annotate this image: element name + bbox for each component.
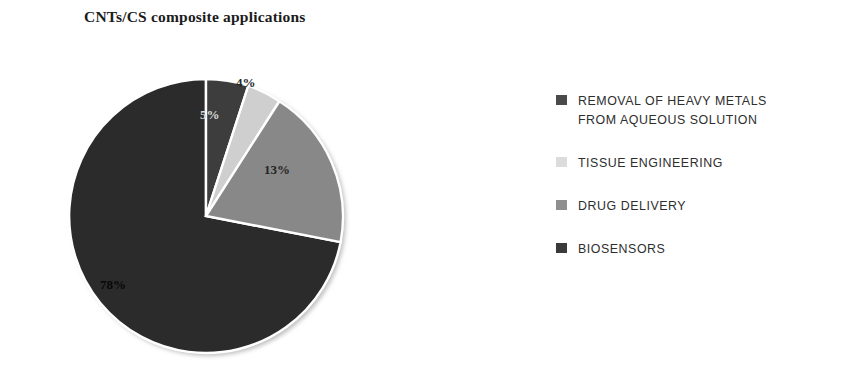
legend-item-biosensors[interactable]: BIOSENSORS (556, 240, 856, 259)
legend-swatch-icon-drug-delivery (556, 200, 567, 210)
chart-legend: REMOVAL OF HEAVY METALS FROM AQUEOUS SOL… (556, 92, 856, 283)
legend-item-tissue-engineering[interactable]: TISSUE ENGINEERING (556, 154, 856, 173)
legend-item-removal-heavy-metals[interactable]: REMOVAL OF HEAVY METALS FROM AQUEOUS SOL… (556, 92, 856, 130)
pie-data-label-drug-delivery: 13% (264, 162, 290, 178)
legend-label-removal-heavy-metals: REMOVAL OF HEAVY METALS FROM AQUEOUS SOL… (578, 92, 767, 130)
legend-swatch-icon-tissue-engineering (556, 157, 567, 167)
legend-label-drug-delivery: DRUG DELIVERY (578, 197, 686, 216)
legend-swatch-icon-biosensors (556, 243, 567, 253)
pie-data-label-tissue-engineering: 4% (236, 75, 256, 91)
pie-data-label-removal-heavy-metals: 5% (200, 107, 220, 123)
pie-data-label-biosensors: 78% (100, 277, 126, 293)
chart-title: CNTs/CS composite applications (84, 8, 306, 26)
pie-chart-figure: CNTs/CS composite applications (0, 0, 863, 369)
legend-label-tissue-engineering: TISSUE ENGINEERING (578, 154, 723, 173)
pie-chart-plot-area: 5% 4% 13% 78% (60, 72, 360, 362)
legend-swatch-icon-removal-heavy-metals (556, 95, 567, 105)
legend-label-biosensors: BIOSENSORS (578, 240, 665, 259)
legend-item-drug-delivery[interactable]: DRUG DELIVERY (556, 197, 856, 216)
